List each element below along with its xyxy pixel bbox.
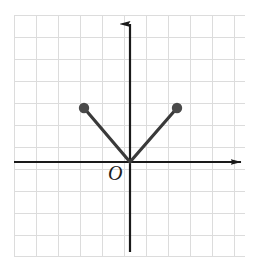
left-endpoint-dot <box>79 103 89 113</box>
origin-label: O <box>108 163 122 183</box>
coordinate-plane-svg <box>0 0 256 266</box>
grid-vertical-lines <box>15 15 235 257</box>
graph-figure: O <box>0 0 256 266</box>
segment-right-branch <box>130 108 177 162</box>
segment-left-branch <box>84 108 130 162</box>
right-endpoint-dot <box>172 103 182 113</box>
axes <box>14 24 241 252</box>
